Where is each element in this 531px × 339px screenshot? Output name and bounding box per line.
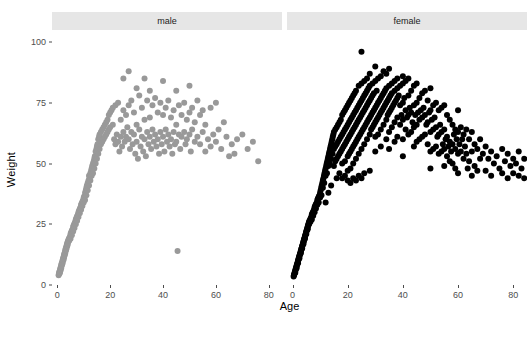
- data-point: [123, 112, 129, 118]
- data-point: [483, 144, 489, 150]
- facet-strip-female-label: female: [393, 16, 420, 26]
- data-point: [157, 100, 163, 106]
- data-point: [147, 134, 153, 140]
- data-point: [171, 107, 177, 113]
- data-point: [139, 105, 145, 111]
- data-point: [163, 105, 169, 111]
- data-point: [155, 136, 161, 142]
- data-point: [516, 173, 522, 179]
- data-point: [383, 136, 389, 142]
- data-point: [414, 80, 420, 86]
- data-point: [136, 127, 142, 133]
- data-point: [173, 88, 179, 94]
- data-point: [405, 76, 411, 82]
- data-point: [427, 85, 433, 91]
- data-point: [505, 151, 511, 157]
- x-tick-label: 80: [508, 290, 518, 300]
- data-point: [367, 71, 373, 77]
- data-point: [378, 144, 384, 150]
- data-point: [131, 131, 137, 137]
- data-point: [192, 119, 198, 125]
- data-point: [394, 76, 400, 82]
- data-point: [143, 153, 149, 159]
- data-point: [200, 129, 206, 135]
- data-point: [173, 139, 179, 145]
- data-point: [189, 105, 195, 111]
- data-point: [202, 122, 208, 128]
- data-point: [245, 146, 251, 152]
- data-point: [372, 63, 378, 69]
- data-point: [152, 95, 158, 101]
- data-point: [358, 49, 364, 55]
- points-layer-male: [52, 30, 282, 285]
- data-point: [134, 139, 140, 145]
- data-point: [160, 112, 166, 118]
- data-point: [213, 139, 219, 145]
- x-tick-mark: [513, 285, 514, 288]
- x-tick-label: 0: [55, 290, 60, 300]
- points-layer-female: [287, 30, 527, 285]
- data-point: [124, 124, 130, 130]
- data-point: [255, 158, 261, 164]
- x-axis-title: Age: [0, 300, 531, 312]
- data-point: [433, 100, 439, 106]
- data-point: [184, 117, 190, 123]
- data-point: [160, 78, 166, 84]
- data-point: [250, 139, 256, 145]
- data-point: [474, 168, 480, 174]
- data-point: [483, 168, 489, 174]
- data-point: [507, 163, 513, 169]
- data-point: [234, 136, 240, 142]
- data-point: [135, 156, 141, 162]
- data-point: [216, 127, 222, 133]
- data-point: [437, 122, 443, 128]
- data-point: [358, 175, 364, 181]
- data-point: [161, 148, 167, 154]
- plot-area-female: [287, 30, 527, 285]
- data-point: [177, 146, 183, 152]
- x-tick-mark: [269, 285, 270, 288]
- data-point: [455, 170, 461, 176]
- data-point: [372, 148, 378, 154]
- data-point: [469, 129, 475, 135]
- data-point: [469, 148, 475, 154]
- x-tick-label: 40: [158, 290, 168, 300]
- data-point: [441, 127, 447, 133]
- data-point: [347, 180, 353, 186]
- plot-area-male: [52, 30, 282, 285]
- data-point: [134, 85, 140, 91]
- data-point: [142, 117, 148, 123]
- x-tick-label: 60: [211, 290, 221, 300]
- data-point: [186, 83, 192, 89]
- data-point: [499, 170, 505, 176]
- data-point: [126, 136, 132, 142]
- data-point: [425, 97, 431, 103]
- data-point: [342, 173, 348, 179]
- data-point: [324, 170, 330, 176]
- data-point: [142, 136, 148, 142]
- data-point: [156, 151, 162, 157]
- data-point: [176, 102, 182, 108]
- y-tick-label: 25: [36, 219, 46, 229]
- data-point: [441, 102, 447, 108]
- data-point: [386, 146, 392, 152]
- data-point: [458, 148, 464, 154]
- data-point: [463, 151, 469, 157]
- data-point: [386, 66, 392, 72]
- data-point: [169, 151, 175, 157]
- data-point: [153, 144, 159, 150]
- data-point: [502, 158, 508, 164]
- x-tick-label: 40: [398, 290, 408, 300]
- x-tick-mark: [110, 285, 111, 288]
- data-point: [194, 134, 200, 140]
- data-point: [168, 136, 174, 142]
- data-point: [218, 146, 224, 152]
- x-tick-label: 20: [343, 290, 353, 300]
- data-point: [160, 134, 166, 140]
- data-point: [110, 122, 116, 128]
- facet-strip-male: male: [52, 12, 282, 30]
- data-point: [441, 163, 447, 169]
- data-point: [197, 141, 203, 147]
- data-point: [469, 173, 475, 179]
- data-point: [427, 165, 433, 171]
